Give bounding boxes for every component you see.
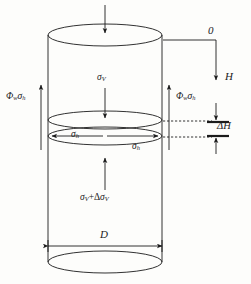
vertical-stress-bottom-label: σV+ΔσV (80, 192, 109, 202)
diameter-D-label: D (100, 228, 108, 240)
horizontal-stress-left-label: σh (71, 129, 79, 139)
datum-zero-label: 0 (208, 24, 214, 36)
horizontal-stress-right-label: σh (132, 141, 140, 151)
wall-friction-left-label: Φwσh (6, 91, 25, 101)
diagram-canvas (0, 0, 251, 284)
vertical-stress-top-label: σV (97, 72, 106, 82)
depth-H-label: H (225, 70, 233, 82)
diameter-dimension (48, 240, 162, 252)
settlement-leader-lines (163, 121, 212, 137)
delta-H-label: ΔH (217, 120, 231, 131)
silo-stress-diagram: 0 H ΔH D Φwσh Φwσh σV σV+ΔσV σh σh (0, 0, 251, 284)
wall-friction-right-label: Φwσh (176, 91, 195, 101)
cylinder-bottom-ellipse (48, 251, 162, 273)
